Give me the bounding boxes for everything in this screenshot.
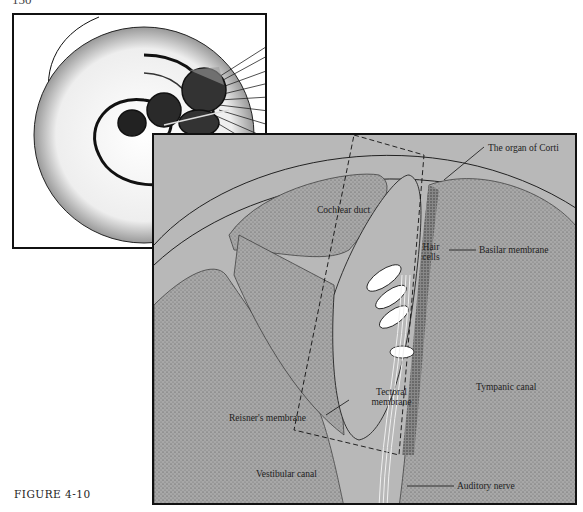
organ-of-corti-figure: The organ of Corti Cochlear duct Hair ce… (152, 133, 577, 505)
label-tectoral-line1: Tectoral (369, 387, 414, 397)
organ-of-corti-illustration (154, 135, 577, 505)
label-auditory-nerve: Auditory nerve (457, 481, 515, 491)
label-hair-cells-line2: cells (416, 252, 446, 262)
label-tectoral-membrane: Tectoral membrane (369, 387, 414, 407)
label-cochlear-duct: Cochlear duct (317, 205, 370, 215)
page-number: 150 (12, 0, 32, 8)
label-basilar-membrane: Basilar membrane (479, 245, 548, 255)
label-hair-cells-line1: Hair (416, 242, 446, 252)
label-tectoral-line2: membrane (369, 397, 414, 407)
label-reisners-membrane: Reisner's membrane (229, 413, 306, 423)
label-tympanic-canal: Tympanic canal (476, 382, 536, 392)
label-vestibular-canal: Vestibular canal (256, 469, 317, 479)
figure-caption: FIGURE 4-10 (14, 488, 91, 500)
label-organ-of-corti: The organ of Corti (488, 143, 559, 153)
label-hair-cells: Hair cells (416, 242, 446, 262)
